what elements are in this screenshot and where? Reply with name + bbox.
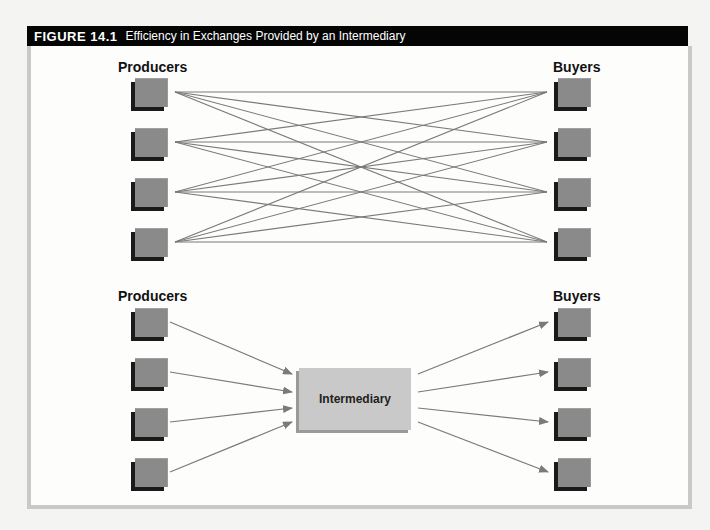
buyer-node xyxy=(558,178,591,207)
buyer-node xyxy=(558,308,591,337)
producer-node xyxy=(135,228,168,257)
producer-node xyxy=(135,408,168,437)
intermediary-box: Intermediary xyxy=(299,368,411,430)
buyer-node xyxy=(558,78,591,107)
producer-node xyxy=(135,78,168,107)
direct-exchange-lines xyxy=(175,92,547,242)
buyer-node xyxy=(558,358,591,387)
buyer-node xyxy=(558,408,591,437)
intermediary-label: Intermediary xyxy=(319,392,391,406)
connection-lines xyxy=(0,0,710,530)
bottom-buyers-label: Buyers xyxy=(553,288,600,304)
producer-node xyxy=(135,308,168,337)
buyer-node xyxy=(558,228,591,257)
producer-node xyxy=(135,178,168,207)
bottom-producers-label: Producers xyxy=(118,288,187,304)
top-buyers-label: Buyers xyxy=(553,59,600,75)
buyer-node xyxy=(558,458,591,487)
top-producers-label: Producers xyxy=(118,59,187,75)
producer-node xyxy=(135,358,168,387)
buyer-node xyxy=(558,128,591,157)
producer-node xyxy=(135,128,168,157)
producer-node xyxy=(135,458,168,487)
